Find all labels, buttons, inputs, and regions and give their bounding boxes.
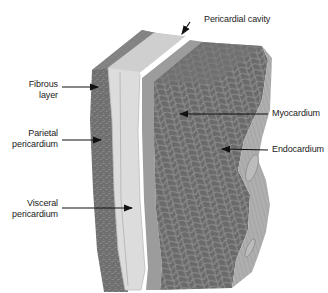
label-visceral-line2: pericardium: [4, 209, 58, 220]
label-fibrous-layer-line1: Fibrous: [14, 79, 58, 90]
label-parietal-line1: Parietal: [4, 128, 58, 139]
label-myocardium: Myocardium: [272, 108, 320, 119]
label-parietal-line2: pericardium: [4, 139, 58, 150]
label-pericardial-cavity: Pericardial cavity: [204, 14, 270, 25]
label-endocardium: Endocardium: [272, 144, 324, 155]
pericardial-cavity-arrow: [182, 22, 190, 34]
label-parietal-pericardium: Parietal pericardium: [4, 128, 58, 150]
label-visceral-pericardium: Visceral pericardium: [4, 198, 58, 220]
label-visceral-line1: Visceral: [4, 198, 58, 209]
label-fibrous-layer-line2: layer: [14, 90, 58, 101]
label-fibrous-layer: Fibrous layer: [14, 79, 58, 101]
heart-wall-diagram: Pericardial cavity Fibrous layer Parieta…: [0, 0, 328, 293]
